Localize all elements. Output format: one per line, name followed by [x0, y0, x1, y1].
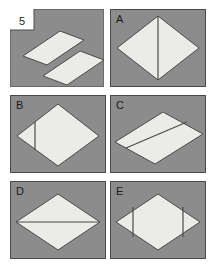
panel-c-graphic: [111, 96, 205, 172]
panel-b: B: [10, 95, 106, 173]
panel-b-label: B: [16, 100, 23, 111]
panel-d-label: D: [16, 186, 24, 197]
panel-b-graphic: [11, 96, 105, 172]
panel-a-graphic: [111, 10, 205, 86]
panel-e: E: [110, 181, 206, 259]
rhombus-c: [115, 112, 203, 164]
panel-d-graphic: [11, 182, 105, 258]
figure-sheet: 5 A B C D: [0, 0, 216, 270]
rhombus-e: [116, 194, 200, 250]
panel-d: D: [10, 181, 106, 259]
item-number-label: 5: [19, 16, 25, 27]
panel-a: A: [110, 9, 206, 87]
rhombus-b: [17, 104, 99, 166]
panel-c: C: [110, 95, 206, 173]
panel-e-label: E: [116, 186, 123, 197]
panel-a-label: A: [116, 14, 123, 25]
panel-c-label: C: [116, 100, 124, 111]
panel-e-graphic: [111, 182, 205, 258]
